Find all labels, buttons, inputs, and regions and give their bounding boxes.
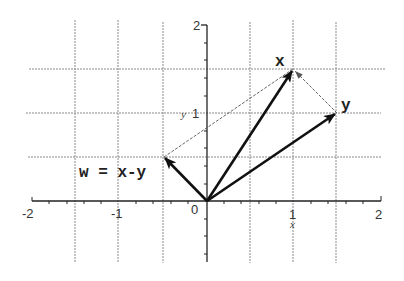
x-axis-label: x — [289, 218, 295, 230]
x-tick-label: -2 — [22, 206, 34, 221]
x-tick-label: 2 — [375, 207, 382, 222]
x-tick-label: -1 — [111, 206, 123, 221]
dashed-line-y-to-x — [295, 71, 337, 113]
origin-label: 0 — [191, 202, 198, 217]
grid — [26, 20, 386, 263]
y-tick-label: 1 — [192, 106, 199, 121]
y-tick-label: 2 — [193, 18, 200, 33]
y-axis-label: y — [180, 108, 186, 120]
vector-x-label: x — [275, 53, 285, 71]
vector-w-arrow — [165, 158, 207, 201]
vector-diagram: -2 -1 0 1 2 2 1 x y x y w = x-y — [0, 0, 404, 281]
vector-w-label: w = x-y — [79, 164, 147, 182]
vector-y-label: y — [341, 97, 351, 115]
axes — [32, 25, 381, 262]
